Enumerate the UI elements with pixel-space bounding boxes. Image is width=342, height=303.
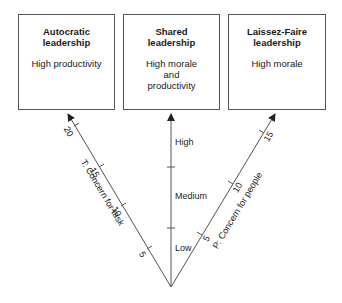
task-tick-20: 20 [62,125,76,139]
task-axis-ticks [74,123,152,249]
people-tick-5: 5 [201,234,212,243]
level-low: Low [175,243,192,253]
axes-diagram: 5 10 15 20 T: Concern for task High Medi… [0,0,342,303]
task-tick-5: 5 [137,250,148,259]
people-tick-15: 15 [262,130,276,144]
task-axis-label: T: Concern for task [79,158,127,228]
level-medium: Medium [175,191,207,201]
level-high: High [175,137,194,147]
task-axis-arrow [68,114,171,287]
